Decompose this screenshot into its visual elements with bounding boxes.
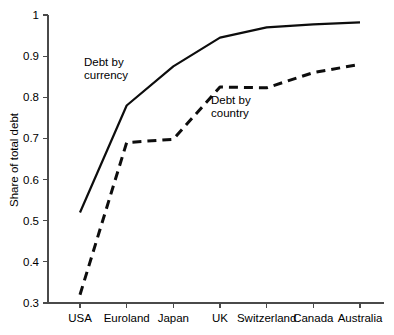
- y-tick-label: 0.5: [23, 215, 39, 227]
- annotation-debt-by-country-line2: country: [211, 107, 249, 119]
- y-tick-label: 0.3: [23, 297, 39, 309]
- y-tick-label: 1: [33, 9, 39, 21]
- x-tick-label: Canada: [293, 312, 334, 324]
- y-tick-label: 0.4: [23, 256, 40, 268]
- x-tick-label: USA: [68, 312, 92, 324]
- x-tick-label: Euroland: [104, 312, 150, 324]
- x-tick-label: Japan: [158, 312, 189, 324]
- annotation-debt-by-country: Debt bycountry: [211, 94, 251, 119]
- annotation-layer: Debt bycurrencyDebt bycountry: [84, 56, 251, 119]
- annotation-debt-by-currency-line2: currency: [84, 69, 128, 81]
- y-axis: 0.30.40.50.60.70.80.91: [23, 9, 48, 309]
- annotation-debt-by-country-line1: Debt by: [211, 94, 251, 106]
- x-axis: USAEurolandJapanUKSwitzerlandCanadaAustr…: [48, 303, 384, 324]
- y-tick-label: 0.9: [23, 50, 39, 62]
- annotation-debt-by-currency: Debt bycurrency: [84, 56, 128, 81]
- y-axis-title: Share of total debt: [8, 112, 20, 207]
- chart-container: 0.30.40.50.60.70.80.91 USAEurolandJapanU…: [0, 0, 394, 335]
- x-tick-label: Switzerland: [237, 312, 296, 324]
- y-tick-label: 0.6: [23, 174, 39, 186]
- y-tick-label: 0.8: [23, 91, 39, 103]
- y-tick-label: 0.7: [23, 132, 39, 144]
- x-tick-label: UK: [212, 312, 228, 324]
- line-chart: 0.30.40.50.60.70.80.91 USAEurolandJapanU…: [0, 0, 394, 335]
- annotation-debt-by-currency-line1: Debt by: [84, 56, 124, 68]
- x-tick-label: Australia: [338, 312, 383, 324]
